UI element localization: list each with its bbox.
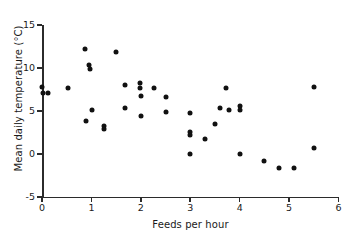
x-tick-label-text: 4 bbox=[237, 203, 243, 213]
y-axis-line bbox=[42, 25, 44, 198]
data-point bbox=[217, 106, 222, 111]
data-point bbox=[226, 108, 231, 113]
y-tick-label-text: 15 bbox=[23, 20, 35, 30]
y-tick-label-text: -5 bbox=[26, 192, 35, 202]
data-point bbox=[137, 85, 142, 90]
data-point bbox=[188, 152, 193, 157]
data-point bbox=[90, 108, 95, 113]
y-tick bbox=[37, 24, 42, 26]
y-axis-title: Mean daily temperature (°C) bbox=[13, 32, 24, 172]
data-point bbox=[122, 83, 127, 88]
x-tick-label-text: 6 bbox=[335, 203, 341, 213]
y-tick bbox=[37, 153, 42, 155]
data-point bbox=[83, 47, 88, 52]
x-tick-label-text: 3 bbox=[187, 203, 193, 213]
x-tick-label-text: 2 bbox=[138, 203, 144, 213]
data-point bbox=[262, 158, 267, 163]
data-point bbox=[277, 165, 282, 170]
y-tick-label-text: 5 bbox=[29, 106, 35, 116]
data-point bbox=[122, 105, 127, 110]
data-point bbox=[65, 85, 70, 90]
data-point bbox=[152, 85, 157, 90]
x-tick-label-text: 5 bbox=[286, 203, 292, 213]
data-point bbox=[311, 145, 316, 150]
y-tick-label-text: 0 bbox=[29, 149, 35, 159]
y-tick-label: -5 bbox=[0, 192, 35, 202]
x-tick-label-text: 1 bbox=[88, 203, 94, 213]
data-point bbox=[40, 84, 45, 89]
data-point bbox=[223, 85, 228, 90]
data-point bbox=[237, 108, 242, 113]
y-tick bbox=[37, 110, 42, 112]
data-point bbox=[114, 49, 119, 54]
data-point bbox=[292, 165, 297, 170]
data-point bbox=[45, 90, 50, 95]
data-point bbox=[311, 84, 316, 89]
data-point bbox=[203, 136, 208, 141]
data-point bbox=[237, 152, 242, 157]
data-point bbox=[101, 127, 106, 132]
data-point bbox=[84, 119, 89, 124]
y-tick bbox=[37, 67, 42, 69]
data-point bbox=[163, 109, 168, 114]
data-point bbox=[188, 133, 193, 138]
x-tick-label-text: 0 bbox=[39, 203, 45, 213]
plot-area: -5051015 0123456 bbox=[0, 0, 349, 241]
scatter-chart-figure: -5051015 0123456 Mean daily temperature … bbox=[0, 0, 349, 241]
data-point bbox=[188, 110, 193, 115]
data-point bbox=[138, 94, 143, 99]
x-axis-title: Feeds per hour bbox=[42, 219, 339, 230]
data-point bbox=[138, 114, 143, 119]
data-point bbox=[163, 95, 168, 100]
data-point bbox=[212, 121, 217, 126]
data-point bbox=[87, 66, 92, 71]
y-tick-label-text: 10 bbox=[23, 63, 35, 73]
